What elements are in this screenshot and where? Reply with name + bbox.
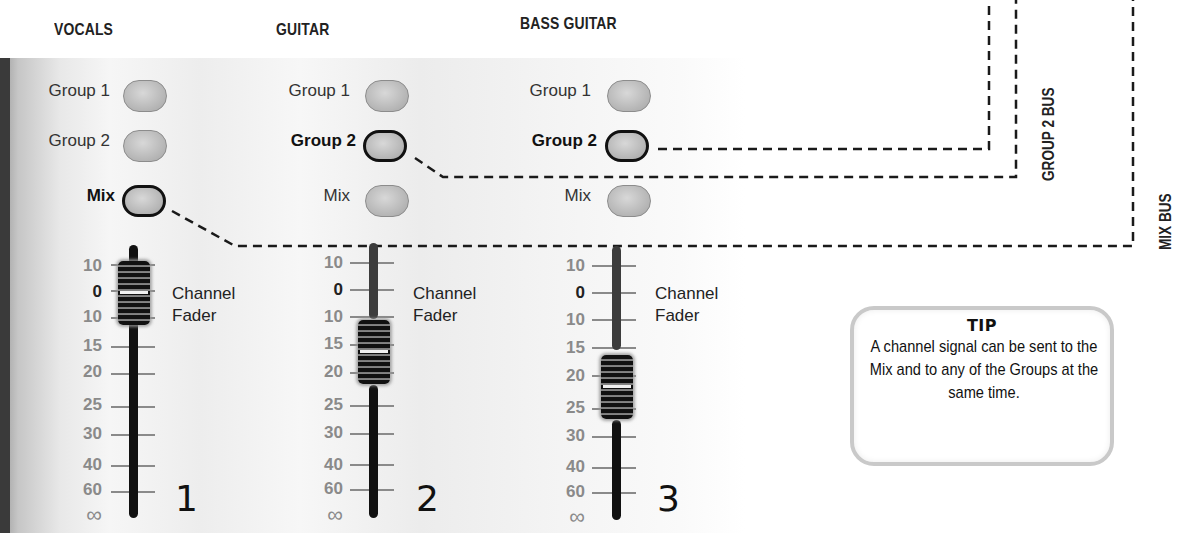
ch1-group2-button[interactable] — [123, 130, 167, 162]
ch2-fader-track[interactable] — [369, 385, 378, 518]
ch3-group1-button[interactable] — [607, 80, 651, 112]
scale-label: 25 — [64, 395, 102, 415]
scale-label: ∞ — [305, 507, 343, 523]
scale-label: 40 — [64, 455, 102, 475]
fader-label-line2: Fader — [413, 305, 476, 327]
scale-label: 20 — [305, 362, 343, 382]
ch3-mix-button[interactable] — [607, 185, 651, 217]
scale-label: 0 — [547, 283, 585, 303]
ch1-fader-label: Channel Fader — [172, 283, 235, 327]
scale-label: 60 — [305, 479, 343, 499]
ch2-fader-label: Channel Fader — [413, 283, 476, 327]
fader-label-line2: Fader — [655, 305, 718, 327]
channel-3-number: 3 — [657, 478, 680, 519]
ch2-group2-label: Group 2 — [246, 131, 356, 151]
scale-label: 10 — [305, 253, 343, 273]
ch3-group2-button[interactable] — [605, 130, 649, 162]
scale-label: 20 — [547, 366, 585, 386]
tip-title: TIP — [854, 316, 1110, 335]
tip-box: TIP A channel signal can be sent to the … — [850, 306, 1114, 466]
ch3-fader-knob[interactable] — [601, 355, 633, 419]
ch1-mix-label: Mix — [5, 186, 115, 206]
ch2-group1-label: Group 1 — [240, 81, 350, 101]
scale-label: 30 — [305, 423, 343, 443]
channel-1-number: 1 — [175, 478, 198, 519]
scale-label: 60 — [547, 482, 585, 502]
scale-label: 0 — [305, 280, 343, 300]
scale-label: 25 — [305, 395, 343, 415]
scale-label: 0 — [64, 282, 102, 302]
ch3-group1-label: Group 1 — [481, 81, 591, 101]
scale-label: 15 — [547, 338, 585, 358]
channel-3-title: BASS GUITAR — [520, 14, 617, 34]
scale-label: 10 — [305, 307, 343, 327]
fader-label-line1: Channel — [172, 283, 235, 305]
scale-label: 40 — [547, 457, 585, 477]
scale-label: 10 — [547, 310, 585, 330]
ch1-group1-label: Group 1 — [0, 81, 110, 101]
ch2-fader-knob[interactable] — [358, 320, 390, 384]
channel-2-number: 2 — [416, 478, 439, 519]
ch2-mix-button[interactable] — [365, 185, 409, 217]
scale-label: 15 — [305, 334, 343, 354]
tip-text: A channel signal can be sent to the Mix … — [859, 335, 1108, 404]
scale-label: ∞ — [547, 509, 585, 525]
channel-2-title: GUITAR — [276, 20, 329, 40]
ch2-mix-label: Mix — [240, 186, 350, 206]
scale-label: 30 — [547, 426, 585, 446]
ch3-mix-label: Mix — [481, 186, 591, 206]
scale-label: 15 — [64, 336, 102, 356]
wire-bass-group2 — [658, 0, 989, 149]
scale-label: 60 — [64, 480, 102, 500]
ch3-group2-label: Group 2 — [487, 131, 597, 151]
fader-label-line1: Channel — [655, 283, 718, 305]
scale-label: 25 — [547, 398, 585, 418]
fader-label-line1: Channel — [413, 283, 476, 305]
fader-label-line2: Fader — [172, 305, 235, 327]
ch1-fader-knob[interactable] — [118, 261, 150, 325]
scale-label: 10 — [64, 307, 102, 327]
ch3-fader-track[interactable] — [612, 420, 621, 520]
scale-label: ∞ — [64, 507, 102, 523]
scale-label: 40 — [305, 455, 343, 475]
channel-1-title: VOCALS — [54, 20, 113, 40]
group2-bus-label: GROUP 2 BUS — [1040, 88, 1058, 181]
scale-label: 30 — [64, 424, 102, 444]
ch1-mix-button[interactable] — [122, 185, 166, 217]
ch2-group2-button[interactable] — [363, 130, 407, 162]
mix-bus-label: MIX BUS — [1157, 193, 1175, 250]
ch2-fader-track-upper[interactable] — [369, 243, 378, 319]
scale-label: 20 — [64, 362, 102, 382]
scale-label: 10 — [64, 256, 102, 276]
ch1-group1-button[interactable] — [123, 80, 167, 112]
ch2-group1-button[interactable] — [365, 80, 409, 112]
ch3-fader-track-upper[interactable] — [612, 246, 621, 350]
scale-label: 10 — [547, 256, 585, 276]
ch1-group2-label: Group 2 — [0, 131, 110, 151]
ch3-fader-label: Channel Fader — [655, 283, 718, 327]
